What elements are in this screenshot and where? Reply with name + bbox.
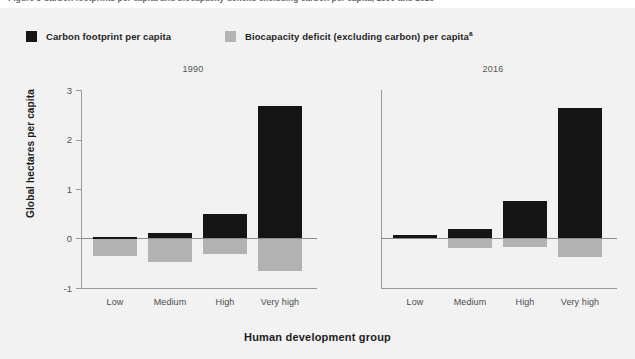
left-panel-x-axis [81,288,317,289]
x-tick-2016-high: High [495,297,555,307]
x-tick-2016-very-high: Very high [550,297,610,307]
x-axis-label: Human development group [0,331,635,343]
panel-title-1990: 1990 [163,64,223,74]
bar-1990-low-deficit [93,239,137,256]
bar-1990-very-high-deficit [258,239,302,271]
y-tick-label-neg1: -1 [52,284,72,294]
x-tick-1990-low: Low [85,297,145,307]
x-tick-2016-medium: Medium [440,297,500,307]
bar-2016-medium-carbon [448,229,492,238]
bar-2016-medium-deficit [448,239,492,248]
bar-1990-high-deficit [203,239,247,254]
y-tick-label-0: 0 [52,234,72,244]
bar-1990-medium-deficit [148,239,192,262]
x-tick-1990-medium: Medium [140,297,200,307]
y-axis-label: Global hectares per capita [25,54,36,254]
y-tick-label-1: 1 [52,185,72,195]
figure-root: Figure 5 Carbon footprints per capita an… [0,0,635,359]
bar-2016-very-high-carbon [558,108,602,238]
bar-2016-high-deficit [503,239,547,247]
right-panel-x-axis [381,288,617,289]
left-panel-y-axis [81,90,82,288]
y-tick-label-3: 3 [52,86,72,96]
bar-1990-medium-carbon [148,233,192,238]
panel-title-2016: 2016 [463,64,523,74]
bar-1990-high-carbon [203,214,247,238]
x-tick-1990-very-high: Very high [250,297,310,307]
x-tick-1990-high: High [195,297,255,307]
plot-area: Global hectares per capita 3 2 1 0 -1 19… [0,0,635,359]
bar-2016-very-high-deficit [558,239,602,257]
x-tick-2016-low: Low [385,297,445,307]
y-tick-label-2: 2 [52,135,72,145]
bar-2016-high-carbon [503,201,547,238]
bar-2016-low-carbon [393,235,437,238]
right-panel-y-axis [381,90,382,288]
bar-1990-very-high-carbon [258,106,302,238]
